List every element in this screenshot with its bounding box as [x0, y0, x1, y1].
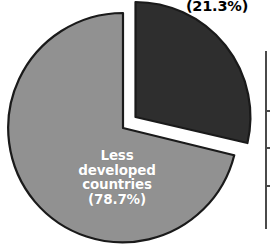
- table-row-tick: [265, 110, 270, 112]
- adjacent-table-left-border: [265, 51, 274, 229]
- table-row-tick: [265, 185, 270, 187]
- table-border-rule: [265, 51, 267, 229]
- pie-chart-canvas: [0, 0, 274, 245]
- pie-label-less-developed: Less developed countries (78.7%): [58, 148, 176, 206]
- table-row-tick: [265, 147, 270, 149]
- pie-slice-more-developed[interactable]: [136, 2, 251, 143]
- pie-chart-figure: Less developed countries (78.7%) countri…: [0, 0, 274, 245]
- pie-label-more-developed: countries (21.3%): [160, 0, 274, 14]
